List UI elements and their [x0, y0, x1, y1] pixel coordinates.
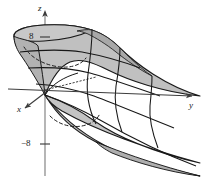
surface-plot-canvas [0, 0, 209, 182]
z-axis-label: z [38, 4, 42, 13]
surface-plot-figure: z y x 8 −8 [0, 0, 209, 182]
y-axis-label: y [189, 101, 193, 110]
z-tick-label-8: 8 [29, 32, 34, 41]
z-tick-label-minus-8: −8 [21, 139, 31, 148]
x-axis-line [25, 92, 46, 108]
x-axis-label: x [17, 105, 21, 114]
surface [14, 25, 200, 176]
